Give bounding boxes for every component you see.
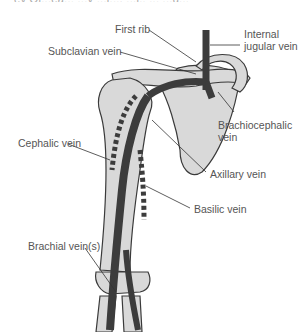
- label-internal-jugular-line1: Internal: [244, 28, 279, 40]
- label-first-rib: First rib: [115, 23, 150, 35]
- leader-first-rib: [149, 30, 196, 62]
- label-brachial-veins: Brachial vein(s): [28, 240, 100, 252]
- label-brachiocephalic-line2: vein: [218, 131, 237, 143]
- label-axillary-vein: Axillary vein: [210, 168, 266, 180]
- label-cephalic-vein: Cephalic vein: [18, 137, 81, 149]
- label-subclavian-vein: Subclavian vein: [48, 45, 122, 57]
- label-internal-jugular-line2: jugular vein: [244, 40, 298, 52]
- label-brachiocephalic-line1: Brachiocephalic: [218, 119, 292, 131]
- label-basilic-vein: Basilic vein: [194, 203, 247, 215]
- leader-basilic: [146, 186, 190, 208]
- basilic-vein: [140, 150, 144, 220]
